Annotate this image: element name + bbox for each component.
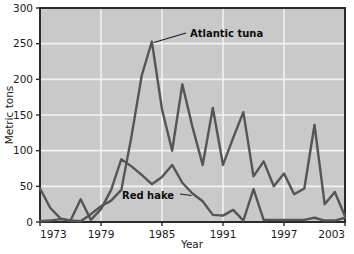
series-label-red-hake: Red hake [122, 190, 174, 201]
x-tick-label: 1997 [271, 228, 298, 240]
y-tick-label: 250 [13, 37, 33, 49]
y-tick-label: 100 [13, 144, 33, 156]
y-tick-label: 200 [13, 73, 33, 85]
y-tick-label: 50 [20, 180, 33, 192]
series-label-atlantic-tuna: Atlantic tuna [190, 28, 263, 39]
y-axis-title: Metric tons [3, 86, 15, 145]
y-tick-label: 300 [13, 2, 33, 14]
y-axis-tick-labels: 050100150200250300 [13, 2, 33, 228]
x-axis-title: Year [180, 238, 204, 250]
x-tick-label: 2003 [318, 228, 345, 240]
chart-figure: 050100150200250300 197319791985199119972… [0, 0, 354, 254]
y-tick-label: 0 [26, 216, 33, 228]
x-tick-label: 1991 [210, 228, 237, 240]
y-tick-label: 150 [13, 109, 33, 121]
x-tick-label: 1979 [88, 228, 115, 240]
fisheries-landings-line-chart: 050100150200250300 197319791985199119972… [0, 0, 354, 254]
x-tick-label: 1985 [149, 228, 176, 240]
x-tick-label: 1973 [40, 228, 67, 240]
